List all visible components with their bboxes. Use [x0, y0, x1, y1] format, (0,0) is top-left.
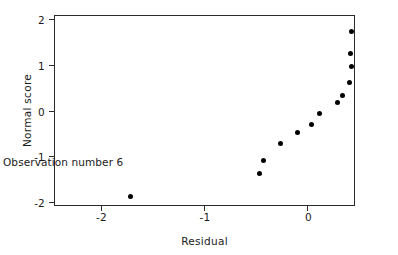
x-axis-tick-label: 0: [305, 212, 312, 223]
data-point: [295, 130, 300, 135]
x-axis-tick-label: -2: [96, 212, 107, 223]
y-axis-tick: 0: [49, 111, 55, 112]
x-axis-tick: 0: [307, 205, 308, 211]
y-axis-tick-label: 2: [38, 15, 45, 26]
y-axis-tick-label: 1: [38, 60, 45, 71]
x-axis-tick-label: -1: [200, 212, 211, 223]
plot-area: -2-1012-2-10: [54, 15, 355, 206]
data-point: [348, 51, 353, 56]
data-point: [349, 64, 354, 69]
normal-probability-plot-figure: -2-1012-2-10 Normal score Residual Obser…: [0, 0, 398, 255]
data-point: [278, 141, 283, 146]
data-point: [347, 80, 352, 85]
y-axis-tick: 2: [49, 19, 55, 20]
data-point: [257, 171, 262, 176]
data-point: [317, 111, 322, 116]
data-point: [349, 29, 354, 34]
x-axis-title: Residual: [54, 235, 355, 247]
x-axis-tick: -1: [204, 205, 205, 211]
y-axis-tick: 1: [49, 65, 55, 66]
x-axis-tick: -2: [101, 205, 102, 211]
y-axis-tick-label: 0: [38, 106, 45, 117]
y-axis-title: Normal score: [21, 15, 35, 206]
data-point: [335, 100, 340, 105]
y-axis-tick-label: -2: [34, 198, 45, 209]
data-point: [309, 122, 314, 127]
data-point: [261, 158, 266, 163]
data-point: [340, 93, 345, 98]
data-point: [128, 194, 133, 199]
observation-annotation: Observation number 6: [3, 156, 123, 168]
y-axis-tick: -2: [49, 202, 55, 203]
